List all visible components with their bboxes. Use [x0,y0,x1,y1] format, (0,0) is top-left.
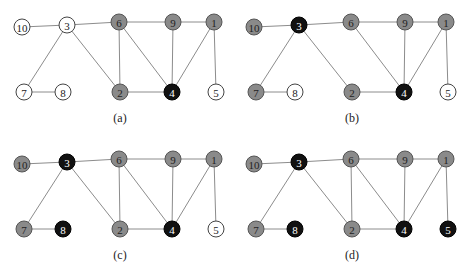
node-label: 3 [64,157,70,169]
node-label: 9 [402,154,408,166]
node-10: 10 [14,19,30,35]
node-label: 7 [253,224,259,236]
caption-a: (a) [113,111,126,126]
node-5: 5 [208,221,224,237]
node-2: 2 [112,221,128,237]
node-label: 2 [117,87,123,99]
node-label: 9 [170,17,176,29]
edge-1-4 [404,22,446,92]
node-5: 5 [440,84,456,100]
node-1: 1 [206,151,222,167]
node-7: 7 [248,221,264,237]
edge-9-4 [404,159,405,229]
node-3: 3 [291,154,307,170]
node-6: 6 [343,151,359,167]
node-label: 10 [249,22,261,34]
node-label: 3 [296,20,302,32]
node-9: 9 [397,151,413,167]
node-label: 8 [60,224,66,236]
node-label: 9 [170,154,176,166]
node-label: 7 [21,224,27,236]
node-label: 3 [296,157,302,169]
node-label: 4 [401,224,407,236]
node-6: 6 [343,14,359,30]
edge-6-4 [351,159,404,229]
node-label: 1 [443,17,449,29]
node-label: 5 [213,87,219,99]
panel-c: 12345678910 (c) [0,137,232,274]
node-label: 10 [17,159,29,171]
panel-b: 12345678910 (b) [232,0,463,137]
edge-1-5 [214,159,216,229]
node-9: 9 [397,14,413,30]
edge-1-5 [446,159,448,229]
node-10: 10 [246,19,262,35]
node-6: 6 [111,14,127,30]
node-9: 9 [165,14,181,30]
panel-a: 12345678910 (a) [0,0,232,137]
edge-1-4 [172,159,214,229]
node-3: 3 [59,17,75,33]
node-2: 2 [344,84,360,100]
node-label: 8 [292,224,298,236]
node-label: 4 [169,224,175,236]
node-label: 6 [348,17,354,29]
edge-1-5 [214,22,216,92]
node-label: 8 [60,87,66,99]
node-label: 8 [292,87,298,99]
node-label: 10 [17,22,29,34]
edge-6-2 [119,22,120,92]
node-label: 6 [348,154,354,166]
node-label: 1 [211,17,217,29]
edge-3-7 [24,25,67,92]
node-4: 4 [164,221,180,237]
node-6: 6 [111,151,127,167]
node-5: 5 [440,221,456,237]
edge-6-4 [119,22,172,92]
node-label: 10 [249,159,261,171]
edge-3-7 [256,162,299,229]
node-label: 6 [116,17,122,29]
node-label: 3 [64,20,70,32]
edge-3-2 [299,25,352,92]
node-4: 4 [164,84,180,100]
node-10: 10 [14,156,30,172]
caption-d: (d) [345,248,359,263]
edge-3-7 [24,162,67,229]
node-label: 6 [116,154,122,166]
edge-3-2 [67,25,120,92]
node-label: 2 [349,87,355,99]
node-label: 2 [349,224,355,236]
node-label: 4 [169,87,175,99]
edge-3-7 [256,25,299,92]
node-2: 2 [112,84,128,100]
node-1: 1 [438,151,454,167]
edge-6-2 [351,159,352,229]
node-label: 1 [443,154,449,166]
node-label: 7 [21,87,27,99]
edge-9-4 [404,22,405,92]
node-8: 8 [55,221,71,237]
node-8: 8 [287,84,303,100]
node-label: 7 [253,87,259,99]
node-label: 4 [401,87,407,99]
caption-c: (c) [113,248,126,263]
edge-1-5 [446,22,448,92]
node-label: 2 [117,224,123,236]
node-7: 7 [16,221,32,237]
edge-3-2 [67,162,120,229]
caption-b: (b) [345,111,359,126]
graph-figure: 12345678910 (a) 12345678910 (b) 12345678… [0,0,463,275]
node-2: 2 [344,221,360,237]
node-4: 4 [396,221,412,237]
node-label: 9 [402,17,408,29]
edge-6-2 [119,159,120,229]
edge-3-2 [299,162,352,229]
node-3: 3 [291,17,307,33]
panel-d: 12345678910 (d) [232,137,463,274]
edge-9-4 [172,159,173,229]
node-3: 3 [59,154,75,170]
node-label: 5 [213,224,219,236]
node-label: 5 [445,224,451,236]
edge-9-4 [172,22,173,92]
